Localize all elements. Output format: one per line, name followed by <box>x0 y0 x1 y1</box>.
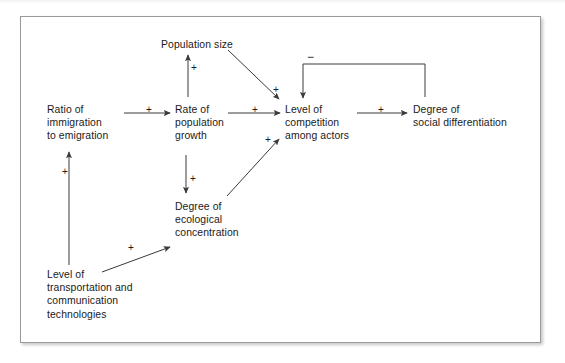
node-ratio-line-0: Ratio of <box>47 103 108 116</box>
node-transportation-line-1: transportation and <box>47 281 133 294</box>
node-differentiation-line-0: Degree of <box>413 103 507 116</box>
node-ecological-line-2: concentration <box>175 226 239 239</box>
node-ratio-immigration-emigration: Ratio of immigration to emigration <box>47 103 108 143</box>
node-rate-line-0: Rate of <box>175 103 224 116</box>
node-rate-line-2: growth <box>175 129 224 142</box>
node-transportation-line-2: communication <box>47 294 133 307</box>
node-level-transportation-communication: Level of transportation and communicatio… <box>47 268 133 321</box>
node-competition-line-0: Level of <box>285 103 349 116</box>
node-rate-line-1: population <box>175 116 224 129</box>
edge-sign-differentiation-to-competition: − <box>307 52 314 62</box>
node-ratio-line-2: to emigration <box>47 129 108 142</box>
top-page-strip <box>0 0 565 4</box>
node-degree-ecological-concentration: Degree of ecological concentration <box>175 200 239 240</box>
edge-sign-rate-to-population-size: + <box>191 63 197 73</box>
edge-sign-competition-to-differentiation: + <box>378 105 384 115</box>
node-rate-population-growth: Rate of population growth <box>175 103 224 143</box>
edge-sign-ratio-to-rate: + <box>146 105 152 115</box>
node-population-size-line-0: Population size <box>161 38 233 51</box>
node-degree-social-differentiation: Degree of social differentiation <box>413 103 507 129</box>
node-competition-line-1: competition <box>285 116 349 129</box>
edge-sign-rate-to-competition: + <box>252 105 258 115</box>
node-differentiation-line-1: social differentiation <box>413 116 507 129</box>
node-population-size: Population size <box>161 38 233 51</box>
edge-sign-rate-to-ecological-concentration: + <box>190 174 196 184</box>
edge-sign-ecological-concentration-to-competition: + <box>265 135 271 145</box>
edge-sign-transportation-to-ratio: + <box>62 167 68 177</box>
node-transportation-line-3: technologies <box>47 308 133 321</box>
edge-sign-population-size-to-competition: + <box>273 85 279 95</box>
node-ratio-line-1: immigration <box>47 116 108 129</box>
node-ecological-line-1: ecological <box>175 213 239 226</box>
edge-sign-transportation-to-ecological-concentration: + <box>128 243 134 253</box>
node-competition-line-2: among actors <box>285 129 349 142</box>
node-ecological-line-0: Degree of <box>175 200 239 213</box>
node-level-competition-among-actors: Level of competition among actors <box>285 103 349 143</box>
node-transportation-line-0: Level of <box>47 268 133 281</box>
